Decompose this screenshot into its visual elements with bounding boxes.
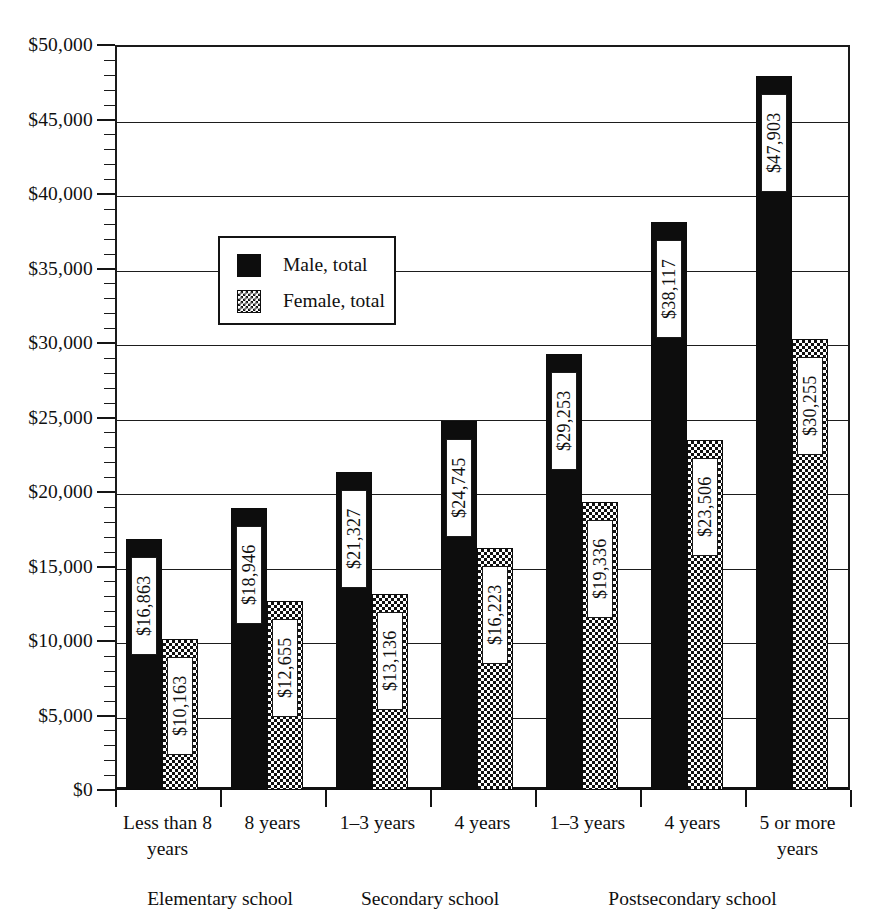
y-axis-minor-tick — [104, 686, 115, 687]
bar-value-label: $38,117 — [656, 240, 682, 338]
x-axis-tick — [220, 790, 222, 807]
x-axis-category-label: 4 years — [640, 810, 745, 836]
y-axis-minor-tick — [104, 581, 115, 582]
y-axis-minor-tick — [104, 373, 115, 374]
y-axis-minor-tick — [104, 298, 115, 299]
y-axis-minor-tick — [104, 209, 115, 210]
y-axis-tick-label: $35,000 — [28, 258, 93, 280]
bar-value-label: $30,255 — [797, 357, 823, 455]
legend-label-male: Male, total — [283, 254, 367, 276]
x-axis-tick — [115, 790, 117, 807]
y-axis-major-tick — [97, 268, 115, 270]
y-axis-minor-tick — [104, 134, 115, 135]
y-axis-minor-tick — [104, 328, 115, 329]
x-axis-tick — [535, 790, 537, 807]
x-axis-category-label: 5 or moreyears — [745, 810, 850, 861]
bar-value-label: $29,253 — [551, 372, 577, 470]
chart-legend: Male, total Female, total — [218, 236, 396, 325]
y-axis-minor-tick — [104, 701, 115, 702]
y-axis-minor-tick — [104, 507, 115, 508]
bar-value-label: $47,903 — [761, 94, 787, 192]
solid-black-swatch-icon — [237, 254, 261, 277]
y-axis-minor-tick — [104, 537, 115, 538]
y-axis-major-tick — [97, 44, 115, 46]
y-axis-minor-tick — [104, 105, 115, 106]
x-axis-group-label: Secondary school — [325, 888, 535, 910]
y-axis-tick-label: $45,000 — [28, 109, 93, 131]
bar-value-label: $13,136 — [377, 612, 403, 710]
bar-value-label: $16,223 — [482, 566, 508, 664]
y-axis-minor-tick — [104, 283, 115, 284]
y-axis-major-tick — [97, 491, 115, 493]
y-axis-minor-tick — [104, 552, 115, 553]
earnings-by-education-bar-chart: $0$5,000$10,000$15,000$20,000$25,000$30,… — [0, 0, 888, 919]
y-axis-minor-tick — [104, 447, 115, 448]
x-axis-group-label: Elementary school — [115, 888, 325, 910]
y-axis-minor-tick — [104, 730, 115, 731]
y-axis-minor-tick — [104, 656, 115, 657]
legend-label-female: Female, total — [283, 290, 385, 312]
y-axis-major-tick — [97, 342, 115, 344]
y-axis-minor-tick — [104, 626, 115, 627]
x-axis-category-label: 8 years — [220, 810, 325, 836]
bar-value-label: $24,745 — [446, 439, 472, 537]
y-axis-minor-tick — [104, 164, 115, 165]
y-axis-minor-tick — [104, 224, 115, 225]
bars-layer: $16,863$10,163$18,946$12,655$21,327$13,1… — [115, 45, 850, 790]
checkerboard-swatch-icon — [237, 290, 261, 313]
x-axis: Less than 8years8 years1–3 years4 years1… — [0, 790, 888, 919]
x-axis-tick — [640, 790, 642, 807]
y-axis-minor-tick — [104, 671, 115, 672]
y-axis-minor-tick — [104, 432, 115, 433]
y-axis-minor-tick — [104, 358, 115, 359]
bar-value-label: $16,863 — [131, 557, 157, 655]
y-axis-major-tick — [97, 193, 115, 195]
bar-value-label: $10,163 — [167, 657, 193, 755]
bar-value-label: $21,327 — [341, 490, 367, 588]
legend-item-male: Male, total — [220, 247, 394, 283]
x-axis-tick — [850, 790, 852, 807]
y-axis-minor-tick — [104, 477, 115, 478]
x-axis-category-label: 1–3 years — [325, 810, 430, 836]
y-axis-minor-tick — [104, 239, 115, 240]
y-axis-minor-tick — [104, 60, 115, 61]
x-axis-group-label: Postsecondary school — [535, 888, 850, 910]
y-axis-tick-label: $10,000 — [28, 630, 93, 652]
y-axis-tick-label: $50,000 — [28, 34, 93, 56]
y-axis-major-tick — [97, 119, 115, 121]
y-axis-minor-tick — [104, 254, 115, 255]
x-axis-category-label: Less than 8years — [115, 810, 220, 861]
x-axis-tick — [430, 790, 432, 807]
x-axis-tick — [325, 790, 327, 807]
x-axis-tick — [745, 790, 747, 807]
y-axis-minor-tick — [104, 313, 115, 314]
y-axis-tick-label: $20,000 — [28, 481, 93, 503]
y-axis-minor-tick — [104, 149, 115, 150]
y-axis-major-tick — [97, 640, 115, 642]
bar-value-label: $18,946 — [236, 526, 262, 624]
y-axis-minor-tick — [104, 611, 115, 612]
y-axis-tick-label: $40,000 — [28, 183, 93, 205]
bar-value-label: $12,655 — [272, 619, 298, 717]
y-axis-minor-tick — [104, 522, 115, 523]
y-axis-tick-label: $5,000 — [38, 705, 93, 727]
y-axis-minor-tick — [104, 462, 115, 463]
y-axis-minor-tick — [104, 760, 115, 761]
y-axis-minor-tick — [104, 388, 115, 389]
y-axis-tick-label: $15,000 — [28, 556, 93, 578]
y-axis-minor-tick — [104, 90, 115, 91]
x-axis-category-label: 1–3 years — [535, 810, 640, 836]
bar-value-label: $19,336 — [587, 520, 613, 618]
y-axis: $0$5,000$10,000$15,000$20,000$25,000$30,… — [0, 0, 115, 919]
y-axis-major-tick — [97, 417, 115, 419]
y-axis-minor-tick — [104, 775, 115, 776]
y-axis-tick-label: $30,000 — [28, 332, 93, 354]
y-axis-minor-tick — [104, 403, 115, 404]
y-axis-minor-tick — [104, 596, 115, 597]
y-axis-major-tick — [97, 715, 115, 717]
y-axis-minor-tick — [104, 745, 115, 746]
x-axis-category-label: 4 years — [430, 810, 535, 836]
y-axis-major-tick — [97, 566, 115, 568]
y-axis-minor-tick — [104, 75, 115, 76]
legend-item-female: Female, total — [220, 283, 394, 319]
